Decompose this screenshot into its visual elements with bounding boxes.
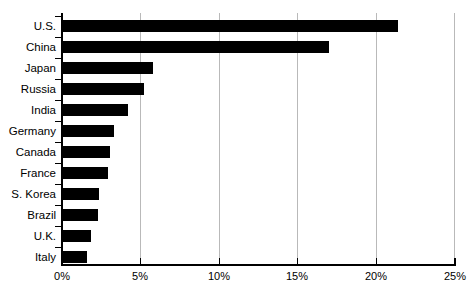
category-label-canada: Canada: [0, 146, 56, 159]
x-tick-label-5: 5%: [115, 270, 165, 282]
bar-germany: [62, 125, 114, 137]
category-label-brazil: Brazil: [0, 209, 56, 222]
category-label-italy: Italy: [0, 251, 56, 264]
bar-chart: U.S. China Japan Russia India Germany Ca…: [0, 0, 473, 300]
category-label-germany: Germany: [0, 125, 56, 138]
category-label-us: U.S.: [0, 20, 56, 33]
x-tick-label-20: 20%: [351, 270, 401, 282]
bar-canada: [62, 146, 110, 158]
bar-uk: [62, 230, 91, 242]
category-label-russia: Russia: [0, 83, 56, 96]
x-tick-label-10: 10%: [194, 270, 244, 282]
plot-area: U.S. China Japan Russia India Germany Ca…: [62, 13, 455, 264]
bar-france: [62, 167, 108, 179]
bar-japan: [62, 62, 153, 74]
bar-china: [62, 41, 329, 53]
x-tick-label-25: 25%: [430, 270, 473, 282]
bar-skorea: [62, 188, 99, 200]
bar-us: [62, 20, 398, 32]
x-tick-10: [219, 258, 220, 265]
category-label-france: France: [0, 167, 56, 180]
category-label-uk: U.K.: [0, 230, 56, 243]
bar-india: [62, 104, 128, 116]
category-label-china: China: [0, 41, 56, 54]
category-label-skorea: S. Korea: [0, 188, 56, 201]
bar-brazil: [62, 209, 98, 221]
gridline-20: [376, 13, 377, 264]
bar-russia: [62, 83, 144, 95]
x-axis-line: [61, 264, 456, 266]
x-tick-5: [140, 258, 141, 265]
category-label-india: India: [0, 104, 56, 117]
x-axis-end-tick: [454, 258, 456, 266]
y-axis-line: [61, 13, 63, 265]
category-label-japan: Japan: [0, 62, 56, 75]
x-tick-20: [376, 258, 377, 265]
x-tick-label-15: 15%: [272, 270, 322, 282]
gridline-25: [454, 13, 455, 264]
x-tick-15: [297, 258, 298, 265]
bar-italy: [62, 251, 87, 263]
x-tick-0: [62, 258, 63, 265]
x-tick-label-0: 0%: [37, 270, 87, 282]
